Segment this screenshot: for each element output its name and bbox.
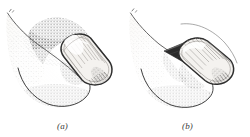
panel-caption-a: (a)	[0, 120, 125, 132]
fingertip-illustration-b	[125, 0, 250, 120]
fingertip-illustration-a	[0, 0, 125, 120]
figure-panel-a: (a)	[0, 0, 125, 137]
panel-caption-b: (b)	[125, 120, 250, 132]
figure-root: (a)	[0, 0, 250, 137]
figure-panel-b: (b)	[125, 0, 250, 137]
